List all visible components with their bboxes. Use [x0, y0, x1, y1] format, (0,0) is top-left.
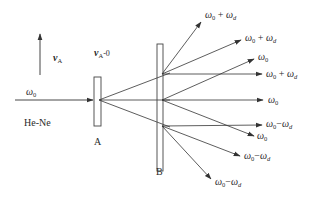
beam-lower-2	[162, 126, 240, 156]
beam-label-lower-2: ω0−ωd	[244, 150, 271, 162]
beam-upper-2	[162, 40, 241, 74]
beam-middle-3	[162, 100, 254, 136]
beam-label-middle-3: ω0	[257, 130, 267, 142]
beam-label-upper-1: ω0 + ωd	[205, 9, 237, 21]
beam-label-upper-2: ω0 + ωd	[245, 32, 277, 44]
ray-a-to-b-upper	[99, 73, 170, 100]
velocity-label: vA	[53, 52, 62, 64]
optics-diagram: vA vA-0 ω0 He-Ne A B ω0 + ωd ω0 + ωd ω0 …	[0, 0, 310, 201]
plate-a	[94, 77, 101, 126]
beam-lower-1	[162, 125, 262, 126]
source-label: He-Ne	[24, 117, 51, 128]
beam-label-lower-3: ω0−ωd	[215, 176, 242, 188]
ray-a-to-b-lower	[99, 100, 170, 127]
velocity-zero-label: vA-0	[94, 47, 110, 59]
beam-upper-1	[162, 22, 201, 74]
plate-b-label: B	[156, 166, 163, 177]
beam-lower-3	[162, 126, 211, 179]
plate-a-label: A	[94, 136, 102, 147]
beam-middle-1	[162, 59, 254, 100]
beam-label-middle-1: ω0	[258, 51, 268, 63]
beam-label-lower-1: ω0−ωd	[266, 118, 293, 130]
incident-frequency-label: ω0	[26, 86, 36, 98]
beam-label-middle-2: ω0	[268, 94, 278, 106]
beam-label-upper-3: ω0 + ωd	[266, 68, 298, 80]
plate-b	[157, 44, 163, 171]
diagram-canvas: vA vA-0 ω0 He-Ne A B ω0 + ωd ω0 + ωd ω0 …	[0, 0, 310, 201]
